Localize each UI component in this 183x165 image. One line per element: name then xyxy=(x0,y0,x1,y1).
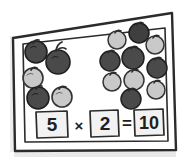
fruit-right-7 xyxy=(103,72,121,91)
fruit-right-6 xyxy=(147,57,167,78)
fruit-right-9 xyxy=(147,80,165,99)
multiplier-value: 2 xyxy=(100,113,111,134)
equals-symbol: = xyxy=(122,114,132,133)
times-symbol: × xyxy=(75,117,84,134)
fruit-left-4 xyxy=(27,86,49,109)
fruit-right-1 xyxy=(108,30,126,49)
fruit-right-2 xyxy=(129,22,149,43)
product-box: 10 xyxy=(134,109,164,136)
multiplier-box: 2 xyxy=(90,110,119,137)
fruit-right-4 xyxy=(100,50,120,71)
product-value: 10 xyxy=(139,113,159,133)
fruit-left-1 xyxy=(25,40,47,63)
fruit-right-5 xyxy=(122,46,144,69)
fruit-multiplication-card: 5 × 2 = 10 xyxy=(0,0,183,165)
multiplicand-value: 5 xyxy=(47,114,58,135)
fruit-right-8 xyxy=(124,69,144,90)
fruit-left-5 xyxy=(52,86,72,107)
fruit-left-3 xyxy=(23,67,43,88)
fruit-right-3 xyxy=(146,35,164,54)
equation-row: 5 × 2 = 10 xyxy=(36,109,164,138)
multiplicand-box: 5 xyxy=(36,111,68,138)
fruit-right-10 xyxy=(121,88,141,109)
